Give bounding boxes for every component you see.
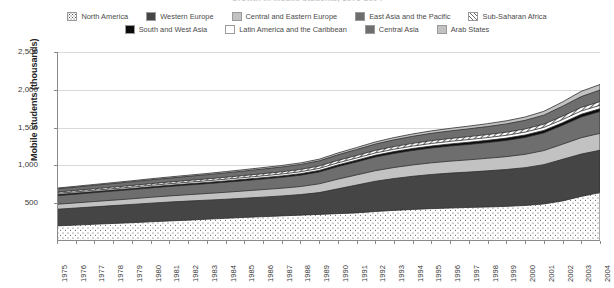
legend-item-central-asia[interactable]: Central Asia [365,25,419,34]
x-axis-tick-label: 1990 [341,265,350,282]
x-axis-tick-mark [57,241,58,244]
y-axis-tick-mark [54,90,57,91]
x-axis-tick-label: 1979 [135,265,144,282]
legend-swatch-latin-america-caribbean [225,25,235,34]
x-axis-tick-mark [544,241,545,244]
y-axis-line [57,52,58,241]
x-axis-tick-mark [600,241,601,244]
x-axis-tick-label: 1984 [229,265,238,282]
legend-swatch-central-asia [365,25,375,34]
x-axis-tick-mark [506,241,507,244]
y-axis-tick-label: 1,500 [0,123,38,132]
y-axis-tick-label: 2,000 [0,85,38,94]
chart-root: Growth in mobile students, 1975-2004 Nor… [0,0,614,288]
x-axis-tick-label: 1980 [154,265,163,282]
legend-swatch-north-america [67,12,77,21]
x-axis-tick-mark [431,241,432,244]
legend-item-western-europe[interactable]: Western Europe [146,12,213,21]
x-axis-tick-mark [413,241,414,244]
x-axis-tick-label: 1999 [509,265,518,282]
legend-item-south-west-asia[interactable]: South and West Asia [125,25,207,34]
legend-swatch-east-asia-pacific [355,12,365,21]
legend-item-central-eastern-europe[interactable]: Central and Eastern Europe [232,12,338,21]
x-axis-tick-mark [469,241,470,244]
legend-swatch-south-west-asia [125,25,135,34]
x-axis-tick-mark [338,241,339,244]
x-axis-tick-label: 1997 [472,265,481,282]
x-axis-tick-label: 1996 [453,265,462,282]
legend-swatch-arab-states [437,25,447,34]
x-axis-tick-mark [94,241,95,244]
x-axis-tick-label: 1978 [116,265,125,282]
x-axis-tick-label: 1987 [285,265,294,282]
x-axis-tick-mark [375,241,376,244]
legend-item-east-asia-pacific[interactable]: East Asia and the Pacific [355,12,450,21]
x-axis-tick-mark [113,241,114,244]
x-axis-tick-mark [563,241,564,244]
x-axis-tick-mark [394,241,395,244]
y-axis-tick-mark [54,165,57,166]
y-axis-tick-label: 2,500 [0,47,38,56]
chart-legend: North America Western Europe Central and… [0,10,614,36]
legend-item-arab-states[interactable]: Arab States [437,25,490,34]
x-axis-tick-label: 1986 [266,265,275,282]
x-axis-tick-mark [169,241,170,244]
legend-label-western-europe: Western Europe [160,12,213,21]
x-axis-tick-mark [525,241,526,244]
x-axis-tick-label: 1989 [322,265,331,282]
legend-swatch-central-eastern-europe [232,12,242,21]
legend-item-latin-america-caribbean[interactable]: Latin America and the Caribbean [225,25,347,34]
legend-label-central-asia: Central Asia [379,25,419,34]
legend-label-arab-states: Arab States [451,25,490,34]
plot-area: 5001,0001,5002,0002,500 [57,52,600,241]
x-axis-tick-mark [244,241,245,244]
x-axis-tick-label: 1993 [397,265,406,282]
x-axis-tick-label: 1992 [378,265,387,282]
x-axis-tick-label: 2003 [584,265,593,282]
x-axis-tick-label: 1977 [97,265,106,282]
x-axis-tick-label: 1983 [210,265,219,282]
x-axis-tick-mark [282,241,283,244]
x-axis-tick-mark [450,241,451,244]
x-axis-tick-mark [488,241,489,244]
legend-label-central-eastern-europe: Central and Eastern Europe [246,12,338,21]
x-axis-tick-mark [207,241,208,244]
x-axis-tick-label: 1982 [191,265,200,282]
x-axis-tick-mark [188,241,189,244]
x-axis-tick-label: 1976 [79,265,88,282]
x-axis-tick-label: 2001 [547,265,556,282]
x-axis-tick-mark [357,241,358,244]
x-axis-tick-label: 1975 [60,265,69,282]
x-axis-tick-label: 1981 [172,265,181,282]
x-axis-tick-label: 1991 [360,265,369,282]
y-axis-title: Mobile students (thousands) [29,41,39,161]
legend-label-sub-saharan-africa: Sub-Saharan Africa [482,12,546,21]
y-axis-tick-mark [54,128,57,129]
chart-title: Growth in mobile students, 1975-2004 [0,0,614,4]
x-axis-tick-label: 1994 [416,265,425,282]
y-axis-tick-mark [54,203,57,204]
y-axis-tick-mark [54,52,57,53]
x-axis-tick-label: 2002 [566,265,575,282]
x-axis-tick-label: 1998 [491,265,500,282]
legend-item-sub-saharan-africa[interactable]: Sub-Saharan Africa [468,12,546,21]
x-axis-tick-label: 2004 [603,265,612,282]
legend-item-north-america[interactable]: North America [67,12,128,21]
legend-label-south-west-asia: South and West Asia [139,25,207,34]
legend-swatch-western-europe [146,12,156,21]
x-axis-tick-label: 1988 [303,265,312,282]
legend-row-2: South and West Asia Latin America and th… [0,23,614,36]
legend-label-north-america: North America [81,12,128,21]
y-axis-tick-label: 1,000 [0,160,38,169]
x-axis-tick-mark [151,241,152,244]
legend-label-east-asia-pacific: East Asia and the Pacific [369,12,450,21]
x-axis-tick-mark [300,241,301,244]
legend-label-latin-america-caribbean: Latin America and the Caribbean [239,25,347,34]
x-axis: 1975197619771978197919801981198219831984… [57,241,600,288]
x-axis-tick-mark [132,241,133,244]
x-axis-tick-label: 2000 [528,265,537,282]
x-axis-tick-label: 1995 [434,265,443,282]
x-axis-tick-mark [226,241,227,244]
x-axis-tick-mark [76,241,77,244]
y-axis-tick-label: 500 [0,198,38,207]
